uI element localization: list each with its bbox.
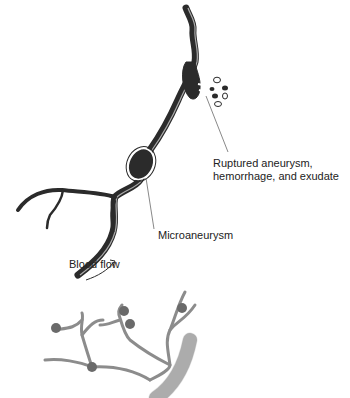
label-blood-flow: Blood flow (69, 258, 120, 271)
label-ruptured-aneurysm: Ruptured aneurysm, hemorrhage, and exuda… (213, 157, 339, 183)
capillary-bottom-figure (45, 292, 195, 398)
leader-line-microaneurysm (146, 178, 154, 229)
label-ruptured-line1: Ruptured aneurysm, (213, 157, 339, 170)
label-microaneurysm: Microaneurysm (158, 229, 233, 242)
label-ruptured-line2: hemorrhage, and exudate (213, 170, 339, 183)
retinopathy-diagram (0, 0, 350, 398)
